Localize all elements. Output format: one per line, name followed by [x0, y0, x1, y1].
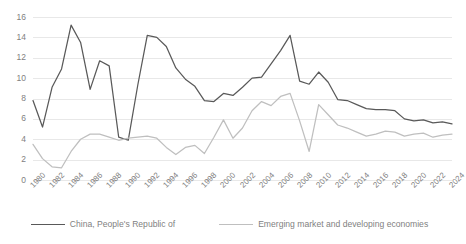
series-line-0	[33, 25, 452, 140]
y-axis-tick-16: 16	[0, 13, 26, 22]
y-axis-tick-2: 2	[0, 155, 26, 164]
y-axis-tick-8: 8	[0, 94, 26, 103]
legend-item-0[interactable]: China, People's Republic of	[31, 219, 175, 229]
chart-legend: China, People's Republic ofEmerging mark…	[0, 219, 459, 229]
series-line-1	[33, 93, 452, 167]
y-axis-tick-0: 0	[0, 176, 26, 185]
series-lines	[33, 17, 452, 180]
legend-swatch-0	[31, 224, 65, 225]
y-axis-tick-4: 4	[0, 135, 26, 144]
y-axis-tick-10: 10	[0, 74, 26, 83]
y-axis-tick-12: 12	[0, 53, 26, 62]
y-axis-tick-6: 6	[0, 114, 26, 123]
plot-area	[33, 17, 452, 180]
legend-item-1[interactable]: Emerging market and developing economies	[219, 219, 428, 229]
legend-swatch-1	[219, 224, 253, 225]
legend-label-1: Emerging market and developing economies	[258, 219, 428, 229]
y-axis-tick-14: 14	[0, 33, 26, 42]
legend-label-0: China, People's Republic of	[70, 219, 175, 229]
